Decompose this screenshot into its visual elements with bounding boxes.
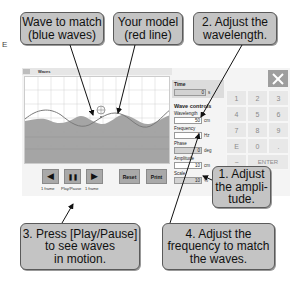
window-title: Waves	[38, 68, 51, 75]
wavelength-unit: cm	[204, 117, 210, 124]
frequency-unit: Hz	[204, 132, 210, 139]
scale-input[interactable]: 10	[174, 177, 202, 184]
phase-input[interactable]: 0	[174, 147, 202, 154]
phase-label: Phase	[174, 141, 187, 146]
wavelength-label: Wavelength	[174, 111, 198, 116]
time-field: 0	[174, 89, 206, 96]
app-menu-icon[interactable]	[23, 69, 30, 74]
wave-plot	[25, 77, 170, 164]
scale-label: Scale	[174, 171, 185, 176]
pause-icon: ❚❚	[68, 174, 78, 180]
wave-canvas[interactable]	[24, 76, 170, 164]
time-section: Time 0 s	[172, 80, 224, 98]
reset-button[interactable]: Reset	[119, 169, 140, 184]
close-button[interactable]	[268, 70, 288, 87]
callout-press-play-text: 3. Press [Play/Pause] to see waves in mo…	[23, 228, 138, 266]
key-9[interactable]: 9	[268, 122, 289, 138]
play-pause-button[interactable]: ❚❚	[64, 169, 81, 184]
callout-adjust-amplitude-text: 1. Adjust the ampli- tude.	[215, 168, 268, 206]
target-wave-fill	[25, 115, 170, 164]
step-back-icon: ◀	[47, 172, 54, 181]
callout-wave-to-match: Wave to match (blue waves)	[20, 12, 104, 45]
amplitude-unit: cm	[204, 162, 210, 169]
print-button[interactable]: Print	[146, 169, 167, 184]
frequency-input[interactable]: 1	[174, 132, 202, 139]
key-8[interactable]: 8	[247, 122, 268, 138]
play-pause-label: Play/Pause	[61, 186, 81, 191]
key-6[interactable]: 6	[268, 106, 289, 122]
title-bar: Waves	[22, 68, 172, 75]
frequency-label: Frequency	[174, 126, 195, 131]
phase-unit: deg	[204, 147, 212, 154]
step-back-button[interactable]: ◀	[42, 169, 59, 184]
step-forward-button[interactable]: ▶	[86, 169, 103, 184]
key-5[interactable]: 5	[247, 106, 268, 122]
key-1[interactable]: 1	[226, 90, 247, 106]
amplitude-label: Amplitude	[174, 156, 194, 161]
callout-adjust-wavelength-text: 2. Adjust the wavelength.	[202, 16, 268, 41]
amplitude-input[interactable]: 10	[174, 162, 202, 169]
callout-adjust-frequency-text: 4. Adjust the frequency to match the wav…	[167, 228, 269, 266]
callout-your-model: Your model (red line)	[113, 12, 183, 45]
key-7[interactable]: 7	[226, 122, 247, 138]
key-decimal[interactable]: .	[268, 138, 289, 154]
callout-wave-to-match-text: Wave to match (blue waves)	[22, 16, 102, 41]
step-back-label: 1 frame	[41, 186, 55, 191]
callout-your-model-text: Your model (red line)	[118, 16, 178, 41]
key-4[interactable]: 4	[226, 106, 247, 122]
callout-press-play: 3. Press [Play/Pause] to see waves in mo…	[20, 223, 140, 270]
side-marker: E	[2, 40, 7, 49]
time-unit: s	[208, 89, 210, 96]
scale-unit: %	[204, 177, 208, 184]
key-3[interactable]: 3	[268, 90, 289, 106]
close-icon	[271, 73, 285, 85]
key-2[interactable]: 2	[247, 90, 268, 106]
time-label: Time	[174, 81, 186, 87]
callout-adjust-amplitude: 1. Adjust the ampli- tude.	[212, 166, 271, 208]
step-forward-icon: ▶	[91, 172, 98, 181]
step-forward-label: 1 frame	[85, 186, 99, 191]
wave-controls-title: Wave controls	[174, 103, 211, 109]
callout-adjust-frequency: 4. Adjust the frequency to match the wav…	[162, 223, 275, 270]
wavelength-input[interactable]: 50	[174, 117, 202, 124]
key-e[interactable]: E	[226, 138, 247, 154]
callout-adjust-wavelength: 2. Adjust the wavelength.	[193, 12, 277, 45]
key-0[interactable]: 0	[247, 138, 268, 154]
